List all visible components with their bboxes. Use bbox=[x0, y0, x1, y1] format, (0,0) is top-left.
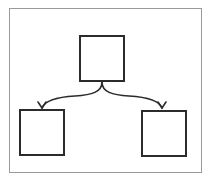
edge-to-right bbox=[102, 82, 162, 108]
connector-arrows bbox=[0, 0, 213, 184]
edge-to-left bbox=[42, 82, 102, 108]
arrowhead-right-icon bbox=[158, 102, 166, 108]
arrowhead-left-icon bbox=[38, 102, 46, 108]
